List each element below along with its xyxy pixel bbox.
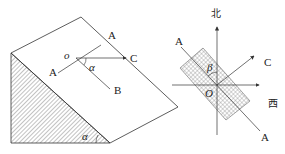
label-alpha-slope: α — [82, 130, 88, 142]
diagram: A A o C B α α 北 西 A A C O β — [0, 0, 285, 154]
label-north: 北 — [211, 8, 221, 19]
compass-figure: 北 西 A A C O β — [172, 8, 278, 143]
label-O: o — [64, 49, 70, 61]
label-O: O — [205, 87, 213, 99]
inclined-plane-figure: A A o C B α α — [11, 17, 178, 143]
label-A-top: A — [108, 29, 116, 41]
label-west: 西 — [268, 98, 278, 109]
strike-line-AA — [181, 47, 260, 131]
label-beta: β — [206, 61, 213, 73]
label-A-left: A — [49, 66, 57, 78]
alpha-arc-plane — [84, 58, 86, 65]
label-alpha-plane: α — [89, 61, 95, 73]
label-C: C — [264, 56, 271, 68]
label-C: C — [130, 52, 137, 64]
label-A-top: A — [175, 35, 183, 47]
diagram-svg: A A o C B α α 北 西 A A C O β — [0, 0, 285, 154]
label-A-bottom: A — [261, 131, 269, 143]
label-B: B — [114, 84, 121, 96]
